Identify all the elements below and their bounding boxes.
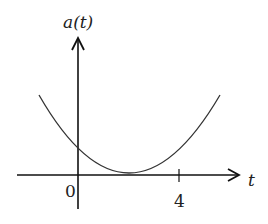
parabola-chart: a(t) t 0 4 xyxy=(0,0,268,224)
parabola-curve xyxy=(39,95,220,173)
chart-canvas xyxy=(0,0,268,224)
x-axis-label: t xyxy=(248,172,255,189)
y-axis-label: a(t) xyxy=(63,14,93,31)
origin-label: 0 xyxy=(65,183,76,200)
tick-label-4: 4 xyxy=(174,193,185,210)
